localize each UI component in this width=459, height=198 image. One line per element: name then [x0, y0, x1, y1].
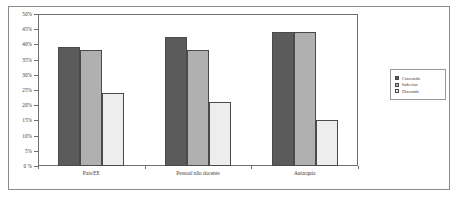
legend-item: Indeciso — [395, 82, 442, 87]
bar-indeciso-0 — [80, 50, 102, 166]
bar-concordo-1 — [165, 37, 187, 166]
legend-swatch-icon — [395, 83, 399, 87]
x-tick — [251, 166, 252, 169]
legend-label: Concordo — [402, 76, 420, 81]
bar-group — [58, 14, 124, 166]
y-tick-label: 40% — [22, 41, 32, 47]
y-tick-label: 35% — [22, 57, 32, 63]
y-tick-label: 45% — [22, 26, 32, 32]
y-axis-line — [38, 14, 39, 166]
bar-indeciso-2 — [294, 32, 316, 166]
legend-label: Indeciso — [402, 82, 418, 87]
y-tick-label: 20% — [22, 102, 32, 108]
bar-indeciso-1 — [187, 50, 209, 166]
y-tick-label: 0 % — [23, 163, 32, 169]
y-tick-label: 15% — [22, 117, 32, 123]
x-axis-label: Pessoal não docente — [176, 170, 219, 176]
y-tick-label: 5% — [25, 148, 32, 154]
x-tick — [358, 166, 359, 169]
legend-item: Concordo — [395, 76, 442, 81]
y-tick — [34, 14, 38, 15]
bar-discordo-1 — [209, 102, 231, 166]
x-axis-label: Pais/EE — [83, 170, 100, 176]
y-tick — [34, 120, 38, 121]
y-tick — [34, 105, 38, 106]
legend-swatch-icon — [395, 76, 399, 80]
bar-concordo-2 — [272, 32, 294, 166]
y-tick-label: 25% — [22, 87, 32, 93]
y-tick — [34, 44, 38, 45]
bar-group — [165, 14, 231, 166]
y-tick — [34, 151, 38, 152]
y-tick — [34, 136, 38, 137]
legend-label: Discordo — [402, 89, 419, 94]
chart-figure: 50%45%40%35%30%25%20%15%10%5%0 % Pais/EE… — [0, 0, 459, 198]
y-tick-label: 30% — [22, 72, 32, 78]
x-tick — [145, 166, 146, 169]
bar-discordo-2 — [316, 120, 338, 166]
plot-area: 50%45%40%35%30%25%20%15%10%5%0 % — [38, 14, 358, 166]
chart-legend: ConcordoIndecisoDiscordo — [390, 69, 446, 100]
bar-discordo-0 — [102, 93, 124, 166]
y-tick-label: 50% — [22, 11, 32, 17]
legend-item: Discordo — [395, 89, 442, 94]
bar-group — [272, 14, 338, 166]
legend-swatch-icon — [395, 89, 399, 93]
y-tick — [34, 90, 38, 91]
y-tick — [34, 29, 38, 30]
y-tick — [34, 60, 38, 61]
x-axis-label: Autarquia — [294, 170, 316, 176]
y-tick — [34, 75, 38, 76]
x-tick — [38, 166, 39, 169]
y-tick-label: 10% — [22, 133, 32, 139]
bar-concordo-0 — [58, 47, 80, 166]
